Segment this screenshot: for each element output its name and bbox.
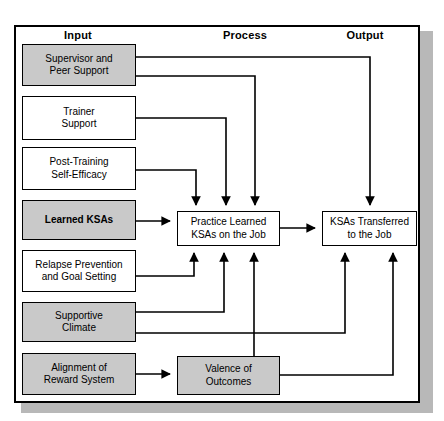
node-ksas-transferred-to-the-job[interactable]: KSAs Transferred to the Job xyxy=(322,211,417,246)
column-header-input: Input xyxy=(38,29,118,41)
node-label: Alignment of Reward System xyxy=(44,362,115,387)
node-label: KSAs Transferred to the Job xyxy=(330,216,409,241)
node-trainer-support[interactable]: Trainer Support xyxy=(22,96,136,140)
node-label: Practice Learned KSAs on the Job xyxy=(191,216,267,241)
node-post-training-self-efficacy[interactable]: Post-Training Self-Efficacy xyxy=(22,147,136,190)
node-label: Valence of Outcomes xyxy=(205,363,252,388)
node-practice-learned-ksas-on-the-job[interactable]: Practice Learned KSAs on the Job xyxy=(177,211,280,246)
diagram-canvas: Input Process Output xyxy=(0,0,444,421)
column-header-output: Output xyxy=(325,29,405,41)
node-label: Learned KSAs xyxy=(45,214,113,227)
column-header-process: Process xyxy=(205,29,285,41)
node-learned-ksas[interactable]: Learned KSAs xyxy=(22,200,136,240)
node-label: Supportive Climate xyxy=(55,310,103,335)
node-supervisor-and-peer-support[interactable]: Supervisor and Peer Support xyxy=(22,44,136,86)
node-relapse-prevention-and-goal-setting[interactable]: Relapse Prevention and Goal Setting xyxy=(22,250,136,292)
node-supportive-climate[interactable]: Supportive Climate xyxy=(22,302,136,342)
node-valence-of-outcomes[interactable]: Valence of Outcomes xyxy=(177,356,280,395)
node-alignment-of-reward-system[interactable]: Alignment of Reward System xyxy=(22,353,136,395)
node-label: Supervisor and Peer Support xyxy=(45,53,112,78)
node-label: Relapse Prevention and Goal Setting xyxy=(35,259,122,284)
node-label: Post-Training Self-Efficacy xyxy=(49,156,108,181)
node-label: Trainer Support xyxy=(61,106,96,131)
